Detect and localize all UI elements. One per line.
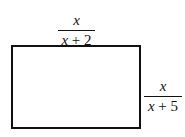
right-denominator: x + 5 bbox=[148, 97, 178, 114]
right-side-length-label: x x + 5 bbox=[144, 79, 182, 114]
top-side-length-label: x x + 2 bbox=[58, 13, 95, 48]
rectangle bbox=[11, 45, 141, 129]
right-denominator-var: x bbox=[148, 98, 155, 114]
top-numerator: x bbox=[70, 13, 83, 30]
right-denominator-rest: + 5 bbox=[155, 98, 178, 114]
right-numerator: x bbox=[157, 79, 170, 96]
